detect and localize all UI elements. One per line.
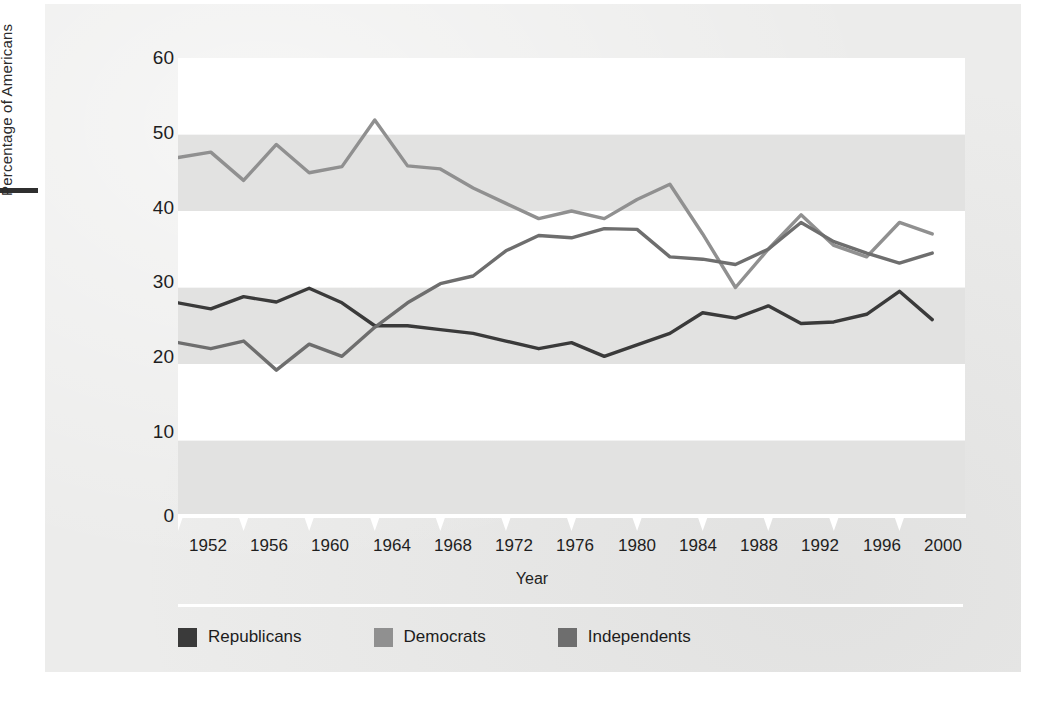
- x-tick-label: 1980: [604, 536, 670, 556]
- x-tick-marker: [567, 518, 576, 531]
- x-tick-marker: [633, 518, 642, 531]
- x-tick-label: 1984: [665, 536, 731, 556]
- x-tick-marker: [829, 518, 838, 531]
- x-tick-marker: [436, 518, 445, 531]
- y-tick-label: 30: [128, 271, 174, 293]
- legend-item-democrats: Democrats: [374, 627, 486, 647]
- legend-label: Republicans: [208, 627, 302, 647]
- x-tick-label: 1996: [849, 536, 915, 556]
- x-tick-label: 1992: [787, 536, 853, 556]
- y-tick-label: 20: [128, 346, 174, 368]
- legend-swatch-icon: [178, 628, 197, 647]
- figure-container: Percentage of Americans 60 50 40 30 20 1…: [0, 0, 1064, 710]
- x-tick-marker: [370, 518, 379, 531]
- x-tick-marker: [501, 518, 510, 531]
- x-tick-marker: [764, 518, 773, 531]
- x-tick-label: 1952: [175, 536, 241, 556]
- x-tick-label: 1968: [420, 536, 486, 556]
- y-tick-label: 60: [128, 47, 174, 69]
- x-tick-marker: [305, 518, 314, 531]
- legend-swatch-icon: [558, 628, 577, 647]
- x-axis-ticks: [178, 518, 904, 531]
- x-tick-marker: [178, 518, 183, 531]
- legend-divider: [178, 604, 963, 607]
- y-tick-label: 50: [128, 122, 174, 144]
- y-tick-label: 40: [128, 197, 174, 219]
- legend-label: Democrats: [404, 627, 486, 647]
- x-tick-label: 1960: [297, 536, 363, 556]
- x-tick-label: 1988: [726, 536, 792, 556]
- x-tick-label: 1976: [542, 536, 608, 556]
- x-tick-marker: [698, 518, 707, 531]
- x-tick-marker: [239, 518, 248, 531]
- chart-legend: Republicans Democrats Independents: [178, 627, 691, 647]
- legend-label: Independents: [588, 627, 691, 647]
- y-axis-title: Percentage of Americans: [0, 24, 15, 196]
- legend-item-independents: Independents: [558, 627, 691, 647]
- legend-item-republicans: Republicans: [178, 627, 302, 647]
- line-chart: [178, 58, 965, 517]
- y-tick-label: 10: [128, 421, 174, 443]
- x-axis-title: Year: [0, 570, 1064, 588]
- x-tick-label: 1956: [236, 536, 302, 556]
- background-bands: [178, 58, 965, 517]
- x-tick-label: 1972: [481, 536, 547, 556]
- x-tick-marker: [895, 518, 904, 531]
- y-tick-label: 0: [128, 505, 174, 527]
- x-tick-label: 2000: [910, 536, 976, 556]
- plot-area: [178, 58, 965, 517]
- legend-swatch-icon: [374, 628, 393, 647]
- x-tick-label: 1964: [359, 536, 425, 556]
